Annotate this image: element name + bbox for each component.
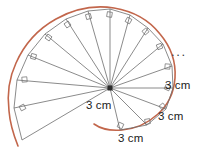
spoke-16 [22, 88, 110, 140]
leg-11 [45, 19, 66, 34]
label-lower-right-leg: 3 cm [158, 111, 183, 123]
center-hub-group [108, 86, 113, 91]
spiral-diagram-figure: 3 cm 3 cm 3 cm 3 cm ... [0, 0, 198, 152]
spiral-arc-group [8, 7, 175, 146]
label-bottom-leg: 3 cm [118, 133, 143, 145]
leg-14 [14, 80, 17, 108]
spoke-5 [110, 66, 172, 88]
spoke-7 [110, 28, 148, 88]
spoke-13 [28, 55, 110, 88]
spiral-outline-arc [8, 7, 175, 146]
spoke-3 [110, 88, 166, 109]
leg-9 [88, 9, 110, 11]
center-hub-marker [108, 86, 113, 91]
spoke-6 [110, 44, 163, 88]
right-angle-icon-13 [22, 77, 27, 82]
right-angle-icon-14 [19, 104, 26, 111]
label-right-leg: 3 cm [165, 80, 190, 92]
spoke-11 [66, 19, 110, 88]
spoke-10 [88, 11, 110, 88]
label-center-leg: 3 cm [86, 100, 111, 112]
leg-1 [120, 125, 147, 130]
spoke-1 [110, 88, 147, 125]
spoke-14 [17, 80, 110, 88]
leg-15 [14, 108, 22, 140]
right-angle-icon-8 [107, 12, 113, 18]
spoke-8 [110, 15, 130, 88]
label-continuation-ellipsis: ... [171, 45, 187, 58]
spoke-12 [45, 34, 110, 88]
leg-12 [28, 34, 45, 55]
right-angle-icon-9 [85, 13, 91, 19]
spiral-diagram-svg [0, 0, 198, 152]
